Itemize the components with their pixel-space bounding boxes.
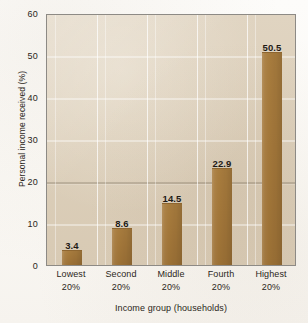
bar-value-label: 22.9 xyxy=(197,158,247,169)
x-tick-label-line2: 20% xyxy=(96,281,146,294)
y-tick-label: 0 xyxy=(33,261,38,271)
x-tick-label: Second20% xyxy=(96,268,146,293)
bar-chart-figure: Personal income received (%) 01020304050… xyxy=(0,0,308,323)
x-axis-tick-labels: Lowest20%Second20%Middle20%Fourth20%High… xyxy=(46,268,296,300)
y-tick-label: 60 xyxy=(28,9,38,19)
x-axis-title: Income group (households) xyxy=(46,303,296,313)
bar-value-label: 50.5 xyxy=(247,42,296,53)
plot-area: 3.48.614.522.950.5 xyxy=(46,14,296,266)
bar-value-label: 8.6 xyxy=(97,218,147,229)
x-tick-label-line1: Lowest xyxy=(56,269,85,279)
x-tick-label: Lowest20% xyxy=(46,268,96,293)
bar-series: 3.48.614.522.950.5 xyxy=(47,15,295,265)
x-tick-label: Fourth20% xyxy=(196,268,246,293)
bar xyxy=(262,52,283,265)
bar-value-label: 14.5 xyxy=(147,193,197,204)
y-tick-label: 20 xyxy=(28,177,38,187)
y-tick-label: 30 xyxy=(28,135,38,145)
x-tick-label: Highest20% xyxy=(246,268,296,293)
bar xyxy=(112,228,133,265)
x-tick-label-line2: 20% xyxy=(146,281,196,294)
x-tick-label-line2: 20% xyxy=(246,281,296,294)
bar xyxy=(62,250,83,265)
x-tick-label-line2: 20% xyxy=(46,281,96,294)
y-tick-label: 40 xyxy=(28,93,38,103)
bar xyxy=(162,203,183,265)
y-tick-label: 50 xyxy=(28,51,38,61)
x-tick-label-line1: Middle xyxy=(157,269,184,279)
x-tick-label: Middle20% xyxy=(146,268,196,293)
y-tick-label: 10 xyxy=(28,219,38,229)
x-tick-label-line2: 20% xyxy=(196,281,246,294)
bar xyxy=(212,168,233,265)
x-tick-label-line1: Fourth xyxy=(208,269,235,279)
x-tick-label-line1: Highest xyxy=(255,269,286,279)
bar-value-label: 3.4 xyxy=(47,240,97,251)
y-axis-tick-labels: 0102030405060 xyxy=(0,0,44,323)
x-tick-label-line1: Second xyxy=(105,269,136,279)
